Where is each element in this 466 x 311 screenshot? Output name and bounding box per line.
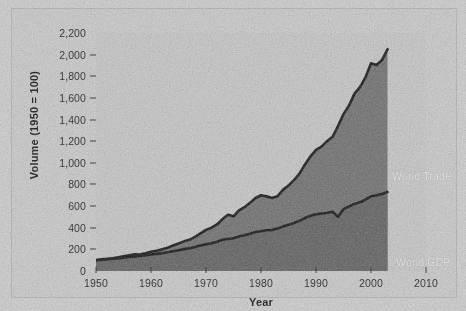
x-tick-mark <box>371 267 372 273</box>
x-tick-mark <box>96 267 97 273</box>
x-tick-label: 1960 <box>139 277 163 289</box>
x-axis-title: Year <box>96 296 426 308</box>
x-tick-mark <box>261 267 262 273</box>
y-tick-label: 1,600 <box>59 92 86 104</box>
y-tick-label: 1,800 <box>59 70 86 82</box>
x-tick-label: 2010 <box>414 277 438 289</box>
y-tick-label: 1,400 <box>59 114 86 126</box>
chart-frame: Volume (1950 = 100) 02004006008001,0001,… <box>11 8 457 298</box>
y-tick-label: 0 <box>80 265 86 277</box>
chart-page: Volume (1950 = 100) 02004006008001,0001,… <box>0 0 466 311</box>
series-label-world-trade: World Trade <box>392 170 451 182</box>
x-tick-label: 1980 <box>249 277 273 289</box>
x-tick-mark <box>206 267 207 273</box>
x-tick-label: 1970 <box>194 277 218 289</box>
x-tick-label: 1950 <box>84 277 108 289</box>
x-tick-label: 2000 <box>359 277 383 289</box>
x-tick-label: 1990 <box>304 277 328 289</box>
y-tick-label: 600 <box>68 200 86 212</box>
x-axis-tick-marks <box>96 267 426 275</box>
y-tick-label: 1,200 <box>59 135 86 147</box>
y-tick-label: 1,000 <box>59 157 86 169</box>
series-label-world-gdp: World GDP <box>396 256 451 268</box>
y-tick-label: 400 <box>68 222 86 234</box>
x-tick-mark <box>316 267 317 273</box>
plot-area: World Trade World GDP <box>96 33 426 271</box>
y-tick-label: 800 <box>68 178 86 190</box>
chart-svg <box>96 33 426 271</box>
x-tick-mark <box>151 267 152 273</box>
x-axis-tick-labels: 1950196019701980199020002010 <box>96 277 426 293</box>
y-tick-label: 200 <box>68 243 86 255</box>
y-tick-label: 2,000 <box>59 49 86 61</box>
y-tick-label: 2,200 <box>59 27 86 39</box>
y-axis-tick-labels: 02004006008001,0001,2001,4001,6001,8002,… <box>28 33 86 271</box>
